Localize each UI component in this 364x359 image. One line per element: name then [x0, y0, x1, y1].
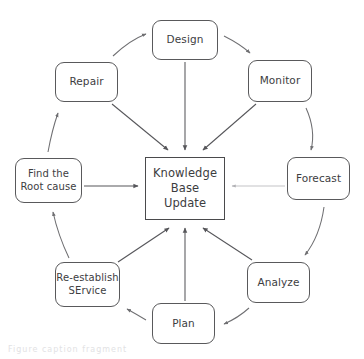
node-find-the-root-cause-label: Find the Root cause: [20, 168, 76, 194]
node-design[interactable]: Design: [152, 20, 218, 60]
edge-service-to-center: [118, 228, 169, 262]
edge-analyze-to-center: [203, 228, 252, 260]
edge-root-to-repair: [48, 113, 58, 152]
edge-forecast-to-analyze: [305, 207, 324, 255]
edge-repair-to-design: [113, 34, 146, 56]
node-plan-label: Plan: [172, 317, 195, 330]
node-knowledge-base-update-label: Knowledge Base Update: [153, 166, 217, 210]
node-forecast[interactable]: Forecast: [287, 157, 350, 200]
edge-monitor-to-forecast: [306, 108, 313, 150]
edge-plan-to-service: [127, 309, 146, 320]
node-monitor-label: Monitor: [260, 74, 301, 87]
edge-monitor-to-center: [203, 104, 256, 150]
node-analyze[interactable]: Analyze: [247, 262, 310, 303]
node-monitor[interactable]: Monitor: [248, 60, 312, 102]
edge-analyze-to-plan: [224, 308, 249, 324]
bottom-caption-artifact: Figure caption fragment: [8, 345, 178, 355]
node-find-the-root-cause[interactable]: Find the Root cause: [15, 158, 82, 203]
node-repair-label: Repair: [69, 75, 103, 88]
node-plan[interactable]: Plan: [152, 303, 215, 344]
edge-repair-to-center: [112, 104, 168, 150]
node-re-establish-service[interactable]: Re-establish SErvice: [55, 262, 120, 307]
node-repair[interactable]: Repair: [55, 62, 118, 102]
node-forecast-label: Forecast: [296, 172, 341, 185]
node-analyze-label: Analyze: [257, 276, 299, 289]
edge-service-to-root: [53, 212, 69, 258]
diagram-canvas: Design Monitor Forecast Analyze Plan Re-…: [0, 0, 364, 359]
node-design-label: Design: [167, 33, 204, 46]
node-re-establish-service-label: Re-establish SErvice: [56, 272, 118, 298]
edge-design-to-monitor: [224, 36, 250, 53]
node-knowledge-base-update[interactable]: Knowledge Base Update: [145, 157, 225, 220]
